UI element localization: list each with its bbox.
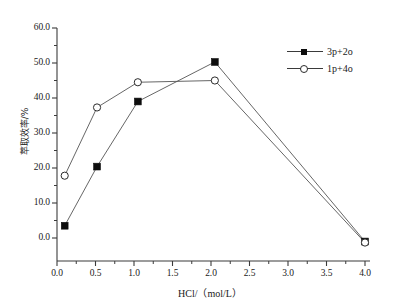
x-tick-label: 0.5 — [79, 268, 113, 278]
data-point-filled-square — [94, 163, 101, 170]
open-circle-marker-icon — [287, 63, 323, 74]
x-tick-label: 3.5 — [310, 268, 344, 278]
plot-area: 0.010.020.030.040.050.060.0 0.00.51.01.5… — [0, 0, 406, 307]
x-tick-label: 4.0 — [348, 268, 382, 278]
y-tick-label: 60.0 — [14, 22, 50, 32]
chart-legend: 3p+2o 1p+4o — [287, 43, 353, 77]
chart-figure: 0.010.020.030.040.050.060.0 0.00.51.01.5… — [0, 0, 406, 307]
series-lines — [65, 62, 365, 243]
y-axis-major-ticks — [52, 28, 57, 238]
x-axis-major-ticks — [57, 261, 365, 266]
x-tick-label: 0.0 — [40, 268, 74, 278]
series-line-1 — [65, 62, 365, 242]
data-point-filled-square — [211, 59, 218, 66]
x-tick-label: 2.5 — [233, 268, 267, 278]
filled-square-marker-icon — [287, 46, 323, 57]
data-point-open-circle — [61, 172, 68, 179]
data-point-filled-square — [61, 222, 68, 229]
data-point-open-circle — [93, 104, 100, 111]
y-tick-label: 0.0 — [14, 232, 50, 242]
series-line-2 — [65, 81, 365, 243]
x-axis-title: HCl/（mol/L） — [120, 285, 300, 300]
legend-item-series-1: 3p+2o — [287, 43, 353, 60]
x-tick-label: 1.0 — [117, 268, 151, 278]
y-axis-title: 萃取效率/% — [18, 90, 31, 174]
data-point-open-circle — [134, 79, 141, 86]
data-point-open-circle — [361, 239, 368, 246]
data-point-filled-square — [134, 98, 141, 105]
x-tick-label: 2.0 — [194, 268, 228, 278]
data-point-open-circle — [211, 77, 218, 84]
y-tick-label: 10.0 — [14, 197, 50, 207]
legend-label-series-1: 3p+2o — [327, 43, 353, 60]
x-tick-label: 3.0 — [271, 268, 305, 278]
legend-label-series-2: 1p+4o — [327, 60, 353, 77]
x-tick-label: 1.5 — [156, 268, 190, 278]
legend-item-series-2: 1p+4o — [287, 60, 353, 77]
series-markers — [61, 59, 369, 247]
y-tick-label: 50.0 — [14, 57, 50, 67]
